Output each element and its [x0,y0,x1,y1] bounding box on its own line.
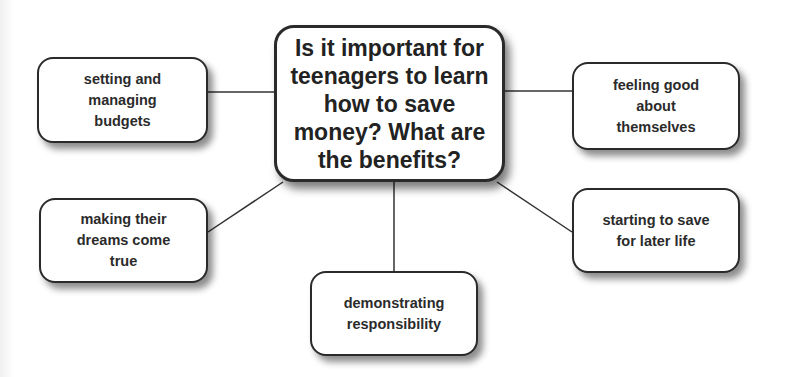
node-budgets: setting and managing budgets [37,57,208,143]
central-question-box: Is it important for teenagers to learn h… [274,25,505,182]
node-responsibility-text: demonstrating responsibility [344,293,445,335]
connector-save-later [497,182,572,232]
node-dreams: making their dreams come true [39,198,208,283]
node-save-later-text: starting to save for later life [602,210,709,252]
node-dreams-text: making their dreams come true [77,209,171,272]
central-question-text: Is it important for teenagers to learn h… [290,34,488,174]
node-feeling-good-text: feeling good about themselves [613,75,699,138]
node-feeling-good: feeling good about themselves [572,62,740,150]
connector-dreams [208,182,283,232]
node-budgets-text: setting and managing budgets [84,69,161,132]
node-save-later: starting to save for later life [572,188,740,273]
node-responsibility: demonstrating responsibility [310,271,478,356]
